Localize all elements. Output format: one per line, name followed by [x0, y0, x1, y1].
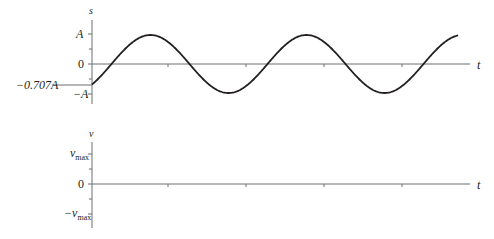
velocity-graph — [88, 142, 470, 228]
v-axis-label: v — [89, 128, 93, 139]
motion-graphs — [0, 0, 494, 239]
position-graph — [52, 20, 470, 104]
t-axis-top-label: t — [477, 58, 480, 73]
s-axis-label: s — [89, 5, 93, 16]
tick-label-A: A — [76, 27, 83, 42]
t-axis-bottom-label: t — [477, 178, 480, 193]
tick-label-neg-A: −A — [73, 87, 88, 102]
tick-label-zero-bottom: 0 — [78, 177, 84, 192]
tick-label-zero-top: 0 — [78, 57, 84, 72]
tick-label-vmax: vmax — [70, 146, 89, 162]
tick-label-initial: −0.707A — [16, 78, 58, 93]
tick-label-neg-vmax: −vmax — [64, 206, 91, 222]
v-axis-ticks — [88, 154, 92, 214]
